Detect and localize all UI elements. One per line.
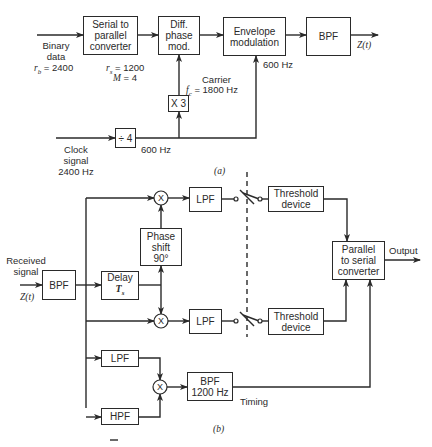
threshold-device-bottom: Threshold device	[268, 308, 324, 335]
phase-shift-90: Phase shift 90°	[140, 228, 182, 266]
tx-output-label: Z(t)	[357, 40, 371, 51]
parallel-to-serial-converter: Parallel to serial converter	[332, 241, 385, 280]
timing-label: Timing	[240, 396, 268, 407]
mixer-timing-label: X	[157, 382, 163, 392]
caption-b: (b)	[213, 424, 224, 435]
m-ary-label: M = 4	[113, 72, 137, 84]
rx-input-label: Z(t)	[20, 292, 34, 303]
threshold-device-top: Threshold device	[268, 186, 324, 212]
mixer-bottom-label: X	[158, 316, 164, 326]
envelope-600hz-label: 600 Hz	[263, 59, 293, 70]
lpf-bottom: LPF	[189, 309, 222, 334]
rx-bpf: BPF	[42, 270, 76, 300]
carrier-frequency-label: fc = 1800 Hz	[186, 84, 238, 100]
timing-bpf-1200hz: BPF 1200 Hz	[187, 372, 233, 401]
tx-bpf: BPF	[306, 17, 351, 56]
delay-ts: Ts	[116, 283, 125, 299]
received-signal-label: Received signal	[6, 255, 46, 277]
diff-phase-modulator: Diff. phase mod.	[158, 16, 200, 55]
clock-signal-label: Clock signal 2400 Hz	[54, 144, 98, 177]
delay-block: Delay Ts	[101, 271, 139, 300]
caption-a: (a)	[214, 166, 225, 177]
bit-rate-label: rb = 2400	[34, 62, 73, 78]
envelope-modulation: Envelope modulation	[223, 17, 286, 56]
mixer-top-label: X	[158, 193, 164, 203]
binary-data-label: Binary data	[38, 40, 74, 62]
serial-to-parallel-converter: Serial to parallel converter	[83, 16, 138, 55]
divider-600hz-label: 600 Hz	[141, 144, 171, 155]
delay-label: Delay	[107, 272, 133, 283]
timing-hpf: HPF	[101, 408, 139, 425]
divide-by-4: ÷ 4	[115, 128, 136, 148]
timing-lpf: LPF	[101, 350, 139, 367]
output-label: Output	[389, 245, 418, 256]
lpf-top: LPF	[189, 187, 222, 212]
